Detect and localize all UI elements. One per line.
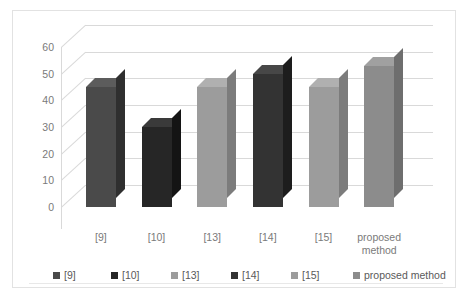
bar-face-0 [86,87,116,207]
legend-swatch-icon-2 [171,272,178,279]
y-tick-label-10: 10 [24,174,54,186]
legend-label-0: [9] [64,269,76,281]
legend-swatch-icon-1 [111,272,118,279]
legend-swatch-icon-3 [231,272,238,279]
y-tick-label-50: 50 [24,68,54,80]
legend-label-3: [14] [242,269,260,281]
legend-swatch-icon-4 [291,272,298,279]
bar-side-0 [116,69,125,198]
bar-face-2 [197,87,227,207]
x-axis-label-3: [14] [239,231,297,244]
x-axis-labels: [9][10][13][14][15]proposed method [61,231,433,265]
x-axis-label-2: [13] [183,231,241,244]
gridline-depth-10 [61,158,86,181]
bar-1 [142,127,172,207]
gridline-depth-60 [61,25,86,48]
bar-side-2 [227,69,236,198]
bar-0 [86,87,116,207]
bar-side-5 [394,48,403,198]
bar-5 [364,66,394,207]
gridline-depth-50 [61,52,86,75]
legend-item-0[interactable]: [9] [53,269,76,281]
y-tick-label-60: 60 [24,41,54,53]
y-tick-label-40: 40 [24,94,54,106]
legend-label-4: [15] [302,269,320,281]
bar-2 [197,87,227,207]
plot-area: 6050403020100 [61,39,433,229]
bar-3 [253,74,283,207]
legend-item-2[interactable]: [13] [171,269,200,281]
y-tick-label-30: 30 [24,121,54,133]
gridline-depth-20 [61,132,86,155]
gridline-50 [85,52,433,53]
gridline-depth-0 [61,185,86,208]
bar-face-1 [142,127,172,207]
legend-label-5: proposed method [364,269,446,281]
legend-item-4[interactable]: [15] [291,269,320,281]
legend-label-1: [10] [122,269,140,281]
gridline-depth-40 [61,78,86,101]
legend-swatch-icon-5 [353,272,360,279]
bar-side-1 [172,109,181,198]
x-axis-label-4: [15] [295,231,353,244]
x-axis-label-1: [10] [128,231,186,244]
legend-label-2: [13] [182,269,200,281]
bar-face-4 [309,87,339,207]
y-tick-label-20: 20 [24,148,54,160]
legend-divider [29,283,443,284]
gridline-60 [85,25,433,26]
bar-side-3 [283,56,292,198]
bar-face-5 [364,66,394,207]
chart-frame: 6050403020100 [9][10][13][14][15]propose… [12,10,456,288]
legend-swatch-icon-0 [53,272,60,279]
chart-legend: [9][10][13][14][15]proposed method [53,267,453,283]
x-axis-label-0: [9] [72,231,130,244]
y-tick-label-0: 0 [24,201,54,213]
bar-4 [309,87,339,207]
x-axis-label-5: proposed method [350,231,408,257]
bar-face-3 [253,74,283,207]
legend-item-1[interactable]: [10] [111,269,140,281]
bar-side-4 [339,69,348,198]
gridline-depth-30 [61,105,86,128]
legend-item-5[interactable]: proposed method [353,269,446,281]
legend-item-3[interactable]: [14] [231,269,260,281]
